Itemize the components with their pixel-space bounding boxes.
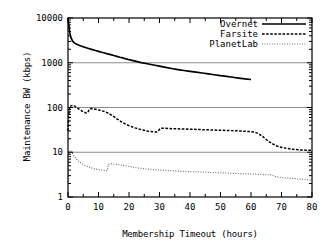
x-tick-label: 50 bbox=[215, 202, 226, 212]
x-axis-label: Membership Timeout (hours) bbox=[122, 229, 258, 239]
y-tick-label: 100 bbox=[0, 103, 63, 113]
x-tick-label: 70 bbox=[276, 202, 287, 212]
x-axis-label-wrapper: Membership Timeout (hours) bbox=[68, 222, 312, 241]
chart-figure: Maintenance BW (kbps) Membership Timeout… bbox=[0, 0, 329, 242]
legend-label-planetlab: PlanetLab bbox=[150, 39, 258, 49]
x-tick-label: 20 bbox=[124, 202, 135, 212]
y-tick-label: 10000 bbox=[0, 13, 63, 23]
x-tick-label: 10 bbox=[93, 202, 104, 212]
x-tick-label: 30 bbox=[154, 202, 165, 212]
series-line-planetlab bbox=[68, 150, 312, 181]
legend-label-overnet: Overnet bbox=[150, 19, 258, 29]
x-tick-label: 60 bbox=[246, 202, 257, 212]
y-tick-label: 10 bbox=[0, 147, 63, 157]
legend-label-farsite: Farsite bbox=[150, 29, 258, 39]
x-tick-label: 0 bbox=[65, 202, 70, 212]
y-tick-label: 1000 bbox=[0, 58, 63, 68]
y-tick-label: 1 bbox=[0, 192, 63, 202]
series-line-farsite bbox=[68, 105, 312, 150]
x-tick-label: 80 bbox=[307, 202, 318, 212]
x-tick-label: 40 bbox=[185, 202, 196, 212]
